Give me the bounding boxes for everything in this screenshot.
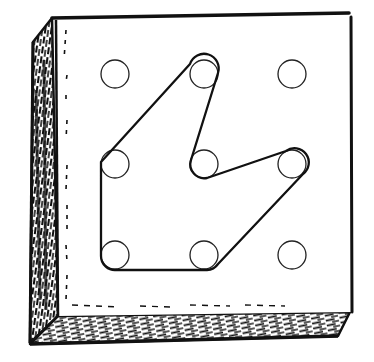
geoboard-figure: Geoboard with a 3x3 grid of pegs and a r… xyxy=(0,0,374,362)
peg-r2c1 xyxy=(190,241,218,269)
board-bottom-side xyxy=(30,312,350,344)
peg-r0c2 xyxy=(278,60,306,88)
geoboard-drawing xyxy=(0,0,374,362)
peg-r0c0 xyxy=(101,60,129,88)
peg-r1c0 xyxy=(101,150,129,178)
peg-r2c2 xyxy=(278,241,306,269)
board-left-side xyxy=(30,18,58,343)
